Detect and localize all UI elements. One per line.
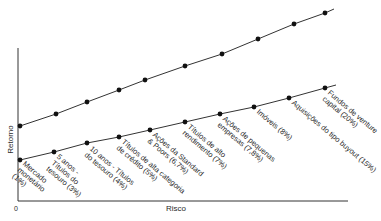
data-point-marker xyxy=(52,150,57,155)
data-point-marker xyxy=(218,112,223,117)
x-axis-label: Risco xyxy=(166,204,186,213)
data-point-marker xyxy=(183,120,188,125)
y-axis-label: Retorno xyxy=(6,125,15,153)
risk-return-chart xyxy=(0,0,381,221)
data-point-marker xyxy=(323,11,328,16)
upper-line xyxy=(20,9,334,126)
data-point-marker xyxy=(85,100,90,105)
data-point-marker xyxy=(54,112,59,117)
data-point-marker xyxy=(292,22,297,27)
data-point-marker xyxy=(117,135,122,140)
origin-label: 0 xyxy=(14,205,18,212)
data-point-marker xyxy=(143,78,148,83)
data-point-marker xyxy=(85,141,90,146)
data-point-marker xyxy=(252,105,257,110)
data-point-marker xyxy=(183,64,188,69)
data-point-marker xyxy=(256,37,261,42)
data-point-marker xyxy=(148,128,153,133)
data-point-marker xyxy=(323,86,328,91)
data-point-marker xyxy=(18,158,23,163)
data-point-marker xyxy=(220,52,225,57)
data-point-marker xyxy=(117,88,122,93)
data-point-marker xyxy=(287,96,292,101)
data-point-marker xyxy=(18,124,23,129)
